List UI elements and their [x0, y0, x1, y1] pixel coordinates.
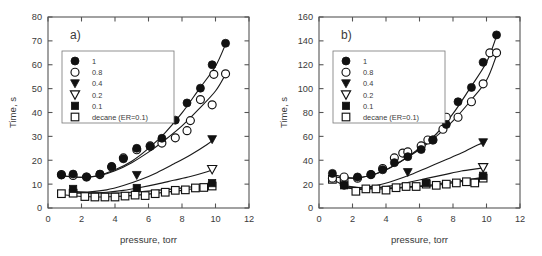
data-marker-filled-circle — [146, 142, 154, 150]
data-marker-filled-circle — [158, 134, 166, 142]
legend-label: 0.4 — [363, 79, 373, 88]
data-marker-open-circle — [454, 113, 462, 121]
legend-label: 0.1 — [92, 102, 102, 111]
data-marker-filled-circle — [69, 170, 77, 178]
data-marker-open-square — [151, 190, 159, 198]
data-marker-open-circle — [479, 80, 487, 88]
data-marker-open-circle — [183, 127, 191, 135]
x-tick-label: 6 — [417, 214, 422, 224]
x-tick-label: 10 — [210, 214, 220, 224]
legend-label: 0.4 — [92, 79, 102, 88]
x-tick-label: 4 — [112, 214, 117, 224]
data-marker-filled-triangle-down — [403, 169, 412, 177]
data-marker-filled-circle — [196, 84, 204, 92]
x-tick-label: 2 — [350, 214, 355, 224]
legend-label: 0.8 — [92, 68, 102, 77]
data-marker-filled-circle — [390, 159, 398, 167]
data-marker-filled-circle — [83, 173, 91, 181]
y-tick-label: 20 — [32, 156, 42, 166]
y-tick-label: 140 — [298, 36, 313, 46]
y-tick-label: 70 — [32, 36, 42, 46]
data-marker-filled-circle — [429, 136, 437, 144]
data-marker-open-square — [443, 180, 451, 188]
data-marker-filled-triangle-down — [132, 171, 141, 179]
data-marker-open-square — [432, 182, 440, 190]
data-marker-filled-circle — [208, 61, 216, 69]
y-tick-label: 60 — [303, 132, 313, 142]
data-marker-filled-square — [423, 179, 430, 186]
data-marker-filled-circle — [479, 58, 487, 66]
panel-a: 02468101201020304050607080pressure, torr… — [0, 0, 271, 256]
x-tick-label: 10 — [481, 214, 491, 224]
data-marker-open-square — [91, 193, 99, 201]
data-marker-open-circle — [71, 68, 79, 76]
y-tick-label: 80 — [32, 12, 42, 22]
data-marker-filled-square — [70, 185, 77, 192]
x-tick-label: 4 — [383, 214, 388, 224]
data-marker-filled-circle — [133, 144, 141, 152]
y-tick-label: 50 — [32, 84, 42, 94]
data-marker-open-circle — [196, 96, 204, 104]
data-marker-open-square — [402, 183, 410, 191]
y-tick-label: 10 — [32, 180, 42, 190]
data-marker-open-square — [352, 187, 360, 195]
y-tick-label: 40 — [32, 108, 42, 118]
y-tick-label: 60 — [32, 60, 42, 70]
data-marker-open-square — [182, 186, 190, 194]
data-marker-filled-circle — [467, 83, 475, 91]
y-tick-label: 30 — [32, 132, 42, 142]
data-marker-open-square — [463, 178, 471, 186]
series-0.4 — [403, 139, 487, 177]
data-marker-filled-circle — [96, 170, 104, 178]
panel-b-plot: 024681012020406080100120140160pressure, … — [271, 0, 542, 256]
data-marker-filled-circle — [454, 98, 462, 106]
figure-two-panel-scatter: 02468101201020304050607080pressure, torr… — [0, 0, 542, 256]
y-axis-title: Time, s — [7, 97, 18, 128]
data-marker-filled-circle — [404, 153, 412, 161]
x-axis-title: pressure, torr — [391, 234, 449, 245]
y-tick-label: 0 — [37, 203, 42, 213]
y-tick-label: 0 — [308, 203, 313, 213]
data-marker-filled-circle — [328, 169, 336, 177]
data-marker-open-square — [141, 192, 149, 200]
data-marker-open-triangle-down — [208, 166, 217, 174]
data-marker-open-square — [121, 192, 129, 200]
data-marker-filled-circle — [222, 39, 230, 47]
data-marker-open-square — [412, 183, 420, 191]
legend-label: 0.8 — [363, 68, 373, 77]
data-marker-open-square — [101, 193, 109, 201]
data-marker-filled-circle — [183, 99, 191, 107]
data-marker-open-square — [382, 186, 390, 194]
data-marker-open-circle — [342, 68, 350, 76]
y-tick-label: 80 — [303, 108, 313, 118]
data-marker-filled-circle — [417, 146, 425, 154]
data-marker-open-square — [372, 185, 380, 193]
data-marker-open-square — [58, 190, 66, 198]
y-tick-label: 120 — [298, 60, 313, 70]
data-marker-open-square — [200, 184, 208, 192]
legend-label: decane (ER=0.1) — [363, 113, 419, 122]
panel-b: 024681012020406080100120140160pressure, … — [271, 0, 542, 256]
data-marker-filled-circle — [108, 162, 116, 170]
data-marker-open-square — [111, 193, 119, 201]
data-marker-filled-circle — [354, 173, 362, 181]
data-marker-filled-circle — [493, 31, 501, 39]
data-marker-filled-circle — [119, 155, 127, 163]
data-marker-filled-circle — [342, 57, 350, 65]
y-tick-label: 160 — [298, 12, 313, 22]
panel-a-plot: 02468101201020304050607080pressure, torr… — [0, 0, 271, 256]
panel-label: b) — [341, 28, 352, 42]
x-tick-label: 8 — [179, 214, 184, 224]
data-marker-open-square — [453, 179, 461, 187]
data-marker-open-square — [172, 187, 180, 195]
data-marker-open-circle — [467, 98, 475, 106]
data-marker-filled-square — [71, 102, 78, 109]
data-marker-open-square — [131, 191, 139, 199]
panel-label: a) — [70, 28, 81, 42]
data-marker-open-square — [81, 193, 89, 201]
data-marker-filled-triangle-down — [479, 139, 488, 147]
legend-label: 0.2 — [92, 91, 102, 100]
legend-label: 1 — [363, 57, 367, 66]
data-marker-open-square — [161, 188, 169, 196]
y-tick-label: 100 — [298, 84, 313, 94]
